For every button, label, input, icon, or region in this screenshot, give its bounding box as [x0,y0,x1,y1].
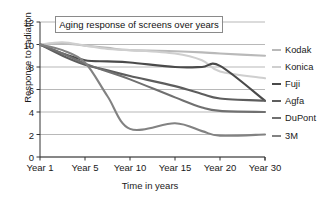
y-axis-tick-label: 10 [16,39,34,50]
y-axis-tick-label: 0 [16,152,34,163]
x-axis-tick-label: Year 20 [204,162,236,173]
y-axis-tick-label: 12 [16,17,34,28]
x-axis-title: Time in years [36,180,264,191]
legend-item-label: DuPont [285,113,316,123]
x-axis-tick-label: Year 10 [114,162,146,173]
chart-figure: Aging response of screens over years Res… [0,0,330,199]
legend-swatch-icon [272,100,281,102]
y-axis-tick-label: 8 [16,62,34,73]
legend-item-label: Konica [285,62,313,72]
legend-item-agfa[interactable]: Agfa [272,93,330,110]
y-axis-tick-label: 6 [16,84,34,95]
x-axis-tick-label: Year 1 [26,162,53,173]
legend-swatch-icon [272,117,281,119]
chart-title: Aging response of screens over years [55,16,223,33]
legend-item-kodak[interactable]: Kodak [272,41,330,58]
legend-item-label: Fuji [285,79,300,89]
legend-swatch-icon [272,66,281,68]
x-axis-tick-label: Year 5 [71,162,98,173]
x-axis-tick-label: Year 15 [159,162,191,173]
legend-swatch-icon [272,83,281,85]
chart-legend: KodakKonicaFujiAgfaDuPont3M [272,41,330,144]
legend-item-konica[interactable]: Konica [272,58,330,75]
y-axis-tick-label: 4 [16,107,34,118]
legend-item-label: Kodak [285,45,311,55]
legend-item-dupont[interactable]: DuPont [272,110,330,127]
legend-item-label: 3M [285,131,298,141]
x-axis-tick-label: Year 30 [249,162,281,173]
series-line-fuji [40,45,265,101]
legend-item-3m[interactable]: 3M [272,127,330,144]
y-axis-tick-label: 2 [16,129,34,140]
legend-swatch-icon [272,135,281,137]
legend-swatch-icon [272,49,281,51]
legend-item-label: Agfa [285,96,304,106]
legend-item-fuji[interactable]: Fuji [272,75,330,92]
